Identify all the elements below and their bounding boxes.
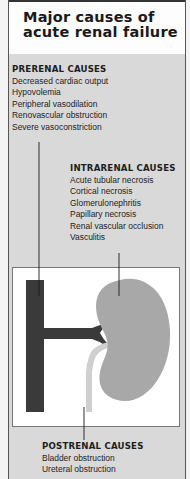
kidney [96,279,170,401]
postrenal-section: POSTRENAL CAUSES Bladder obstruction Ure… [42,441,144,475]
aorta [26,280,44,412]
postrenal-header: POSTRENAL CAUSES [42,441,144,452]
postrenal-item: Ureteral obstruction [42,463,131,474]
renal-artery [44,321,108,346]
kidney-diagram [0,0,190,479]
postrenal-item: Bladder obstruction [42,452,131,463]
